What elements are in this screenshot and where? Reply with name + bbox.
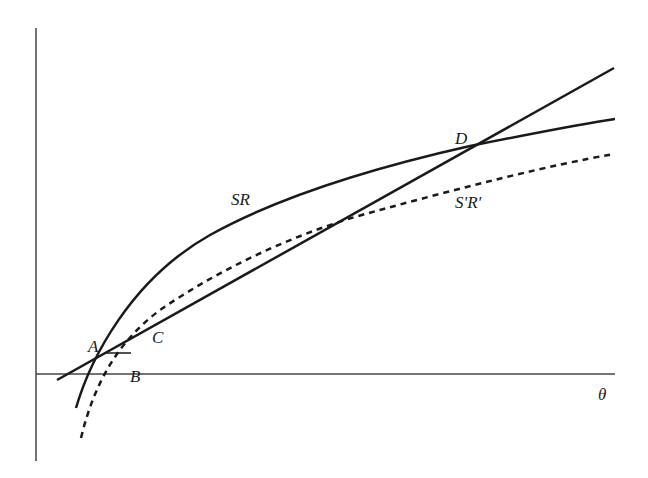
x-axis-label-theta: θ (598, 385, 606, 404)
curve-label-sr: SR (231, 190, 251, 209)
point-label-a: A (87, 337, 99, 356)
point-label-c: C (152, 328, 164, 347)
s-prime-r-prime-curve (81, 154, 614, 438)
sr-curve (76, 119, 615, 408)
curve-label-s-prime-r-prime: S'R' (455, 193, 482, 212)
straight-line (57, 68, 614, 380)
point-label-d: D (454, 129, 468, 148)
point-label-b: B (130, 367, 141, 386)
diagram-canvas: A B C D SR S'R' θ (0, 0, 648, 478)
